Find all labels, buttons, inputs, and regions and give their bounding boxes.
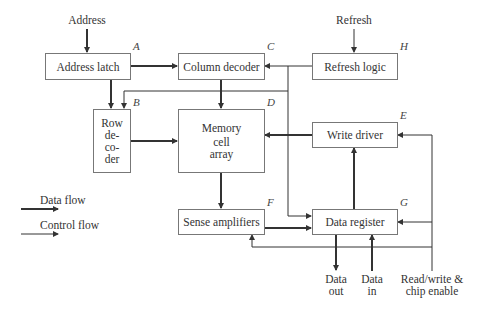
refresh-to-row-line xyxy=(124,91,288,108)
write-driver-label: Write driver xyxy=(327,129,383,141)
data-register-label: Data register xyxy=(325,216,384,228)
tag-c: C xyxy=(267,40,274,52)
tag-g: G xyxy=(400,196,408,208)
rw-to-sense-line xyxy=(252,235,432,247)
tag-e: E xyxy=(400,109,407,121)
memory-label-3: array xyxy=(210,148,234,160)
sense-amplifiers-label: Sense amplifiers xyxy=(183,216,259,228)
tag-a: A xyxy=(133,40,140,52)
row-decoder-label-2: de- xyxy=(105,129,120,141)
refresh-logic-label: Refresh logic xyxy=(324,61,386,73)
data-in-label: Data in xyxy=(357,273,387,297)
column-decoder-label: Column decoder xyxy=(183,61,259,73)
tag-b: B xyxy=(133,96,140,108)
data-out-line-1: Data xyxy=(321,273,351,285)
tag-f: F xyxy=(267,196,274,208)
row-decoder-block: Row de- co- der xyxy=(93,109,131,173)
rw-line-1: Read/write & xyxy=(400,273,464,285)
tag-h: H xyxy=(400,40,408,52)
refresh-input-label: Refresh xyxy=(327,14,381,26)
rw-line-2: chip enable xyxy=(400,285,464,297)
write-driver-block: Write driver xyxy=(312,122,398,148)
address-latch-block: Address latch xyxy=(45,53,131,80)
refresh-to-register-line xyxy=(288,66,311,216)
row-decoder-label-3: co- xyxy=(105,141,120,153)
legend-control-flow-label: Control flow xyxy=(40,219,99,231)
tag-d: D xyxy=(267,96,275,108)
rw-chip-enable-label: Read/write & chip enable xyxy=(400,273,464,297)
memory-cell-array-block: Memory cell array xyxy=(178,109,265,173)
row-decoder-label-4: der xyxy=(105,153,120,165)
memory-label-2: cell xyxy=(213,136,230,148)
data-in-line-2: in xyxy=(357,285,387,297)
refresh-logic-block: Refresh logic xyxy=(312,53,398,80)
sense-amplifiers-block: Sense amplifiers xyxy=(178,209,265,235)
legend-data-flow-label: Data flow xyxy=(40,194,86,206)
memory-label-1: Memory xyxy=(202,122,242,134)
address-latch-label: Address latch xyxy=(57,61,120,73)
data-out-line-2: out xyxy=(321,285,351,297)
data-in-line-1: Data xyxy=(357,273,387,285)
data-out-label: Data out xyxy=(321,273,351,297)
column-decoder-block: Column decoder xyxy=(178,53,265,80)
address-input-label: Address xyxy=(60,14,114,26)
row-decoder-label-1: Row xyxy=(101,117,123,129)
data-register-block: Data register xyxy=(312,209,398,235)
